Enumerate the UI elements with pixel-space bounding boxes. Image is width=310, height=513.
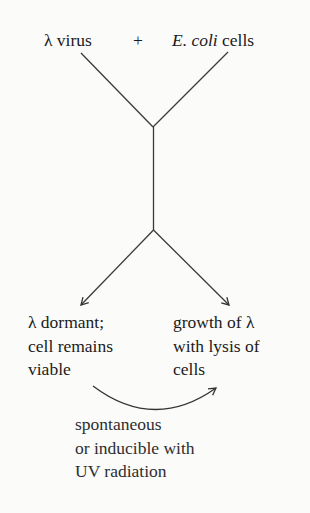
lysogenic-outcome: λ dormant; cell remains viable [28, 311, 113, 382]
lambda-virus-label: λ virus [44, 28, 92, 52]
merge-line-right [153, 52, 228, 127]
arrow-to-lysogeny [81, 230, 154, 305]
induction-line-1: spontaneous [75, 413, 195, 437]
arrow-to-lysis [154, 230, 230, 305]
cells-word: cells [218, 30, 254, 50]
induction-label: spontaneous or inducible with UV radiati… [75, 413, 195, 484]
lytic-outcome: growth of λ with lysis of cells [173, 311, 260, 382]
plus-sign: + [133, 28, 143, 52]
merge-line-left [81, 53, 153, 127]
lytic-line-1: growth of λ [173, 311, 260, 335]
lysogenic-line-3: viable [28, 358, 113, 382]
ecoli-cells-label: E. coli cells [172, 28, 254, 52]
lytic-line-2: with lysis of [173, 335, 260, 359]
lytic-line-3: cells [173, 358, 260, 382]
induction-curved-arrow [93, 386, 216, 410]
lysogenic-line-1: λ dormant; [28, 311, 113, 335]
induction-line-2: or inducible with [75, 437, 195, 461]
ecoli-italic: E. coli [172, 30, 218, 50]
induction-line-3: UV radiation [75, 460, 195, 484]
lysogenic-line-2: cell remains [28, 335, 113, 359]
